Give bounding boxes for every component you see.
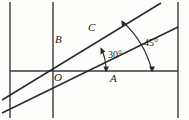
ray-steep-OC [2,3,161,100]
point-label-A: A [110,73,117,84]
geometry-figure: B C O A 30° 45° [0,0,189,120]
diagram-canvas [0,0,189,120]
point-label-B: B [55,34,62,45]
point-label-C: C [88,22,95,33]
angle-label-45: 45° [144,38,158,48]
angle-label-30: 30° [108,50,122,60]
rays [2,3,178,113]
point-label-O: O [54,72,62,83]
grid-lines [10,2,178,118]
